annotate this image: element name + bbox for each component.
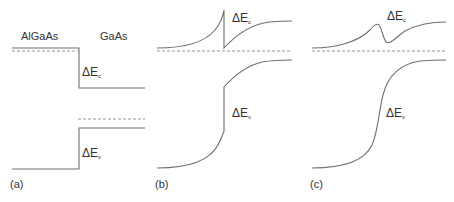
panel-c: ΔEc ΔEv (c) (310, 9, 446, 190)
conduction-band-edge (157, 10, 292, 48)
material-label-algaas: AlGaAs (21, 30, 59, 42)
material-label-gaas: GaAs (100, 30, 128, 42)
panel-b: ΔEc ΔEv (b) (155, 10, 292, 190)
delta-ec-label: ΔEc (387, 9, 406, 23)
panel-label-c: (c) (310, 178, 323, 190)
valence-band-edge (12, 128, 145, 169)
panel-label-a: (a) (10, 178, 23, 190)
delta-ev-label: ΔEv (386, 106, 405, 120)
panel-a: AlGaAs GaAs ΔEc ΔEv (a) (10, 30, 145, 190)
conduction-band-edge (12, 48, 145, 88)
valence-band-edge (157, 60, 292, 168)
delta-ec-label: ΔEc (232, 11, 251, 25)
delta-ec-label: ΔEc (82, 65, 101, 79)
valence-band-edge (312, 60, 446, 168)
delta-ev-label: ΔEv (232, 106, 251, 120)
panel-label-b: (b) (155, 178, 168, 190)
band-diagram-figure: AlGaAs GaAs ΔEc ΔEv (a) ΔEc ΔEv (b) ΔEc … (0, 0, 454, 202)
conduction-band-edge (312, 22, 446, 48)
delta-ev-label: ΔEv (82, 146, 101, 160)
